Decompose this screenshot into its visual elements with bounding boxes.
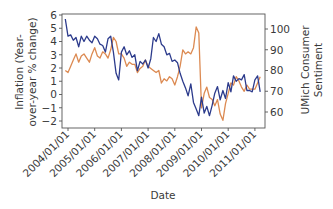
- left-y-tick-label: 4: [50, 35, 57, 47]
- right-y-label-line1: UMich Consumer: [299, 25, 311, 115]
- left-y-tick-label: −1: [42, 102, 57, 114]
- right-y-tick-label: 100: [270, 23, 290, 35]
- left-y-tick-label: 1: [50, 75, 57, 87]
- left-y-axis-label: Inflation (Year- over-year % change): [13, 17, 38, 126]
- left-y-tick-label: 2: [50, 62, 57, 74]
- left-y-tick-label: 6: [50, 9, 57, 21]
- x-axis-label: Date: [150, 189, 175, 201]
- left-y-tick-label: −2: [42, 115, 57, 127]
- left-y-tick-label: 0: [50, 88, 57, 100]
- right-y-axis-label: UMich Consumer Sentiment: [299, 25, 324, 115]
- right-y-tick-label: 70: [270, 85, 283, 97]
- left-y-tick-label: 3: [50, 49, 57, 61]
- left-y-axis: −2−10123456: [42, 9, 62, 127]
- right-y-tick-label: 60: [270, 106, 283, 118]
- x-axis: 2004/01/012005/01/012006/01/012007/01/01…: [20, 128, 258, 179]
- inflation-line: [65, 19, 260, 116]
- right-y-axis: 60708090100: [265, 23, 290, 118]
- left-y-tick-label: 5: [50, 22, 57, 34]
- sentiment-line: [65, 27, 260, 120]
- chart: −2−10123456 60708090100 2004/01/012005/0…: [0, 0, 333, 209]
- right-y-label-line2: Sentiment: [312, 43, 324, 97]
- right-y-tick-label: 80: [270, 64, 283, 76]
- left-y-label-line1: Inflation (Year-: [13, 34, 25, 110]
- left-y-label-line2: over-year % change): [26, 17, 38, 126]
- right-y-tick-label: 90: [270, 44, 283, 56]
- plot-frame: [62, 14, 265, 128]
